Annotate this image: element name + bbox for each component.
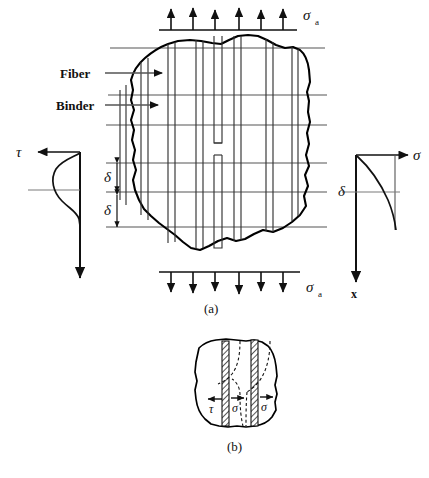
panel-b-fiber-band-1 — [222, 341, 229, 426]
top-load-subscript: a — [315, 17, 319, 27]
x-axis-label: x — [351, 287, 357, 301]
callout-binder-label: Binder — [56, 98, 95, 113]
bottom-load-subscript: a — [318, 289, 322, 299]
top-load-sigma-symbol: σ — [303, 7, 311, 23]
delta-upper-label: δ — [104, 169, 112, 185]
delta-lower-label: δ — [104, 202, 112, 218]
bottom-load-sigma-symbol: σ — [306, 279, 314, 295]
composite-stress-figure: σ a Fiber — [0, 0, 429, 478]
sigma-plot-delta-label: δ — [338, 183, 346, 199]
panel-b-caption: (b) — [227, 439, 242, 454]
panel-a-caption: (a) — [204, 301, 218, 316]
figure-root: σ a Fiber — [0, 0, 429, 478]
panel-b-fiber-band-2 — [251, 340, 258, 426]
callout-fiber-label: Fiber — [60, 66, 91, 81]
sigma-axis-label: σ — [413, 147, 421, 163]
tau-axis-label: τ — [16, 144, 22, 160]
panel-b-tau-label: τ — [209, 402, 214, 416]
